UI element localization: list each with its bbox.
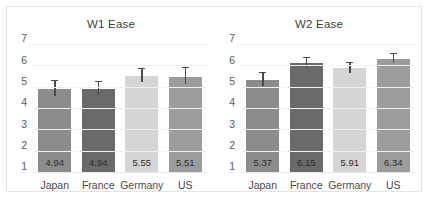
error-bar <box>98 82 100 96</box>
y-axis-tick-label: 6 <box>229 54 235 66</box>
gridline <box>33 172 207 173</box>
y-axis-tick-label: 1 <box>229 160 235 172</box>
error-bar-cap-top <box>259 72 266 73</box>
y-axis-tick-label: 2 <box>21 139 27 151</box>
chart-title-w1: W1 Ease <box>7 18 215 30</box>
bar-value-label: 5.51 <box>169 157 202 168</box>
y-axis-tick-label: 1 <box>21 160 27 172</box>
gridline <box>33 44 207 45</box>
error-bar-cap-top <box>346 62 353 63</box>
bar-value-label: 5.37 <box>246 157 279 168</box>
bar-slot: 6.34US <box>372 45 416 173</box>
chart-panel-w1: W1 Ease 4.94Japan4.94France5.55Germany5.… <box>7 7 215 191</box>
x-axis-category-label: US <box>366 179 420 191</box>
bar-slot: 5.37Japan <box>241 45 285 173</box>
y-axis-tick-label: 4 <box>229 96 235 108</box>
gridline <box>33 108 207 109</box>
bar[interactable]: 5.55 <box>125 76 158 173</box>
bar-slot: 6.15France <box>285 45 329 173</box>
gridline <box>241 108 415 109</box>
error-bar <box>393 54 395 63</box>
y-axis-tick-label: 7 <box>21 32 27 44</box>
bar[interactable]: 4.94 <box>38 89 71 173</box>
y-axis-tick-label: 6 <box>21 54 27 66</box>
bar-value-label: 5.91 <box>333 157 366 168</box>
gridline <box>241 172 415 173</box>
error-bar-cap-top <box>390 53 397 54</box>
figure-frame: W1 Ease 4.94Japan4.94France5.55Germany5.… <box>6 6 422 192</box>
y-axis-tick-label: 5 <box>21 75 27 87</box>
bar-slot: 4.94Japan <box>33 45 77 173</box>
y-axis-tick-label: 3 <box>21 118 27 130</box>
error-bar-cap-top <box>138 68 145 69</box>
gridline <box>241 129 415 130</box>
bar[interactable]: 6.34 <box>377 59 410 173</box>
chart-title-w2: W2 Ease <box>215 18 423 30</box>
bar-value-label: 4.94 <box>82 157 115 168</box>
error-bar <box>349 63 351 74</box>
bar[interactable]: 4.94 <box>82 89 115 173</box>
gridline <box>241 65 415 66</box>
y-axis-tick-label: 7 <box>229 32 235 44</box>
bar-group-w1: 4.94Japan4.94France5.55Germany5.51US <box>33 45 207 173</box>
bar-slot: 5.51US <box>164 45 208 173</box>
bar[interactable]: 5.51 <box>169 77 202 173</box>
error-bar <box>262 73 264 86</box>
gridline <box>33 87 207 88</box>
bar-group-w2: 5.37Japan6.15France5.91Germany6.34US <box>241 45 415 173</box>
error-bar-cap-top <box>303 57 310 58</box>
error-bar-cap-top <box>51 80 58 81</box>
bar[interactable]: 5.91 <box>333 68 366 173</box>
gridline <box>241 87 415 88</box>
error-bar <box>185 68 187 85</box>
error-bar-cap-top <box>95 81 102 82</box>
bar-value-label: 5.55 <box>125 157 158 168</box>
plot-area-w1: 4.94Japan4.94France5.55Germany5.51US 765… <box>33 45 207 173</box>
bar-slot: 5.55Germany <box>120 45 164 173</box>
gridline <box>33 129 207 130</box>
gridline <box>33 65 207 66</box>
bar-slot: 4.94France <box>77 45 121 173</box>
gridline <box>241 44 415 45</box>
plot-area-w2: 5.37Japan6.15France5.91Germany6.34US 765… <box>241 45 415 173</box>
y-axis-tick-label: 5 <box>229 75 235 87</box>
x-axis-category-label: US <box>158 179 212 191</box>
bar-slot: 5.91Germany <box>328 45 372 173</box>
y-axis-tick-label: 4 <box>21 96 27 108</box>
bar-value-label: 4.94 <box>38 157 71 168</box>
bar-value-label: 6.34 <box>377 157 410 168</box>
gridline <box>241 151 415 152</box>
gridline <box>33 151 207 152</box>
error-bar-cap-top <box>182 67 189 68</box>
bar[interactable]: 5.37 <box>246 80 279 173</box>
error-bar <box>54 81 56 96</box>
chart-panel-w2: W2 Ease 5.37Japan6.15France5.91Germany6.… <box>215 7 423 191</box>
y-axis-tick-label: 2 <box>229 139 235 151</box>
y-axis-tick-label: 3 <box>229 118 235 130</box>
bar[interactable]: 6.15 <box>290 63 323 173</box>
bar-value-label: 6.15 <box>290 157 323 168</box>
error-bar <box>141 69 143 82</box>
